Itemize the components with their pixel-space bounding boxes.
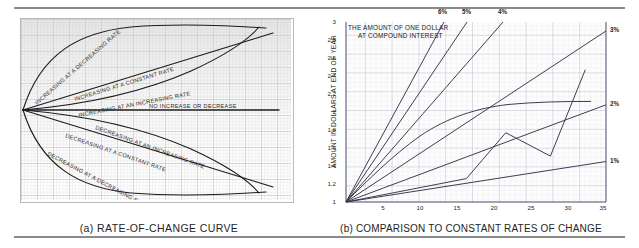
- ytick-2.6: 2.6: [320, 54, 336, 61]
- panel-b-svg: [338, 16, 608, 208]
- panel-b-caption: (b) COMPARISON TO CONSTANT RATES OF CHAN…: [310, 223, 632, 234]
- panel-b-x-ticks: 5 10 15 20 25 30 35: [338, 204, 608, 216]
- xtick-15: 15: [447, 204, 467, 211]
- panel-a: INCREASING AT A DECREASING RATE INCREASI…: [14, 12, 304, 234]
- xtick-30: 30: [558, 204, 578, 211]
- panel-a-caption: (a) RATE-OF-CHANGE CURVE: [14, 222, 304, 234]
- panel-b-annotation-line-2: AT COMPOUND INTEREST: [348, 32, 448, 40]
- ytick-1.4: 1.4: [320, 162, 336, 169]
- panel-b-plot-area: 3 2.8 2.6 2.4 2.2 2 1.8 1.6 1.4 1.2 1 5 …: [338, 16, 608, 208]
- series-label-4-percent: 4%: [498, 8, 507, 15]
- ytick-2.0: 2: [320, 108, 336, 115]
- label-no-increase-or-decrease: NO INCREASE OR DECREASE: [149, 103, 237, 109]
- ytick-1.8: 1.8: [320, 126, 336, 133]
- xtick-10: 10: [410, 204, 430, 211]
- ytick-2.4: 2.4: [320, 72, 336, 79]
- ytick-3.0: 3: [320, 18, 336, 25]
- top-divider-rule: [14, 7, 625, 9]
- ytick-1.0: 1: [320, 198, 336, 205]
- ytick-2.2: 2.2: [320, 90, 336, 97]
- bottom-divider-rule: [14, 236, 625, 238]
- ytick-1.2: 1.2: [320, 180, 336, 187]
- xtick-20: 20: [484, 204, 504, 211]
- xtick-5: 5: [373, 204, 393, 211]
- series-label-1-percent: 1%: [610, 157, 619, 164]
- panel-a-svg: INCREASING AT A DECREASING RATE INCREASI…: [21, 19, 291, 200]
- panel-b-annotation-line-1: THE AMOUNT OF ONE DOLLAR: [348, 24, 448, 31]
- ytick-1.6: 1.6: [320, 144, 336, 151]
- panel-b: AMOUNT IN DOLLARS AT END OF YEAR: [310, 12, 632, 234]
- panel-a-plot-area: INCREASING AT A DECREASING RATE INCREASI…: [20, 18, 294, 203]
- series-label-2-percent: 2%: [610, 100, 619, 107]
- figure-page: INCREASING AT A DECREASING RATE INCREASI…: [0, 0, 639, 248]
- ytick-2.8: 2.8: [320, 36, 336, 43]
- series-label-5-percent: 5%: [462, 8, 471, 15]
- xtick-35: 35: [593, 204, 613, 211]
- xtick-25: 25: [521, 204, 541, 211]
- panel-b-annotation: THE AMOUNT OF ONE DOLLAR AT COMPOUND INT…: [348, 24, 448, 40]
- series-label-6-percent: 6%: [438, 8, 447, 15]
- panel-b-y-ticks: 3 2.8 2.6 2.4 2.2 2 1.8 1.6 1.4 1.2 1: [316, 16, 336, 208]
- series-label-3-percent: 3%: [610, 26, 619, 33]
